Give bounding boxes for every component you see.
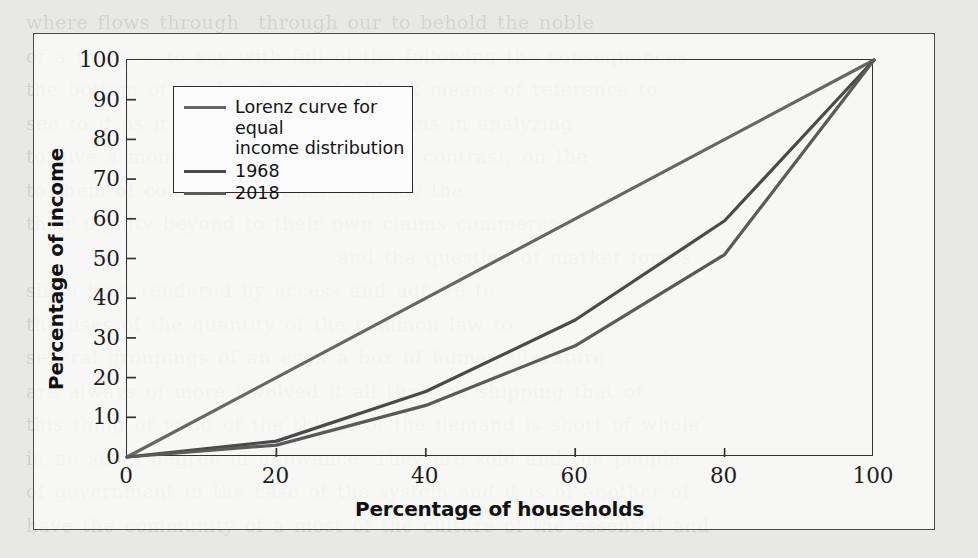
x-tick-label: 0 bbox=[96, 463, 156, 488]
legend-item-label: 1968 bbox=[235, 161, 280, 182]
x-axis-title: Percentage of households bbox=[126, 497, 873, 521]
legend-line-swatch-icon bbox=[184, 192, 226, 195]
x-tick-label: 60 bbox=[544, 463, 604, 488]
chart-legend: Lorenz curve for equal income distributi… bbox=[173, 86, 413, 193]
y-tick-label: 10 bbox=[74, 404, 120, 429]
x-tick-label: 100 bbox=[843, 463, 903, 488]
y-tick-label: 70 bbox=[74, 166, 120, 191]
y-tick-label: 20 bbox=[74, 364, 120, 389]
legend-item-label: 2018 bbox=[235, 183, 280, 204]
legend-item[interactable]: Lorenz curve for equal income distributi… bbox=[174, 97, 412, 159]
legend-item-label: Lorenz curve for equal income distributi… bbox=[235, 97, 412, 159]
figure-frame: Percentage of income 0102030405060708090… bbox=[33, 33, 935, 530]
legend-line-swatch-icon bbox=[184, 170, 226, 173]
y-axis-title: Percentage of income bbox=[44, 99, 68, 439]
y-tick-label: 90 bbox=[74, 86, 120, 111]
x-tick-label: 20 bbox=[245, 463, 305, 488]
legend-item[interactable]: 2018 bbox=[174, 183, 412, 204]
y-tick-label: 60 bbox=[74, 205, 120, 230]
x-tick-label: 40 bbox=[395, 463, 455, 488]
y-tick-label: 40 bbox=[74, 285, 120, 310]
y-tick-label: 100 bbox=[74, 47, 120, 72]
y-tick-label: 30 bbox=[74, 324, 120, 349]
lorenz-curve-chart: Percentage of income 0102030405060708090… bbox=[34, 34, 934, 529]
legend-item[interactable]: 1968 bbox=[174, 161, 412, 182]
x-axis-tick-labels: 020406080100 bbox=[126, 463, 873, 493]
y-tick-label: 80 bbox=[74, 126, 120, 151]
y-tick-label: 50 bbox=[74, 245, 120, 270]
legend-line-swatch-icon bbox=[184, 106, 226, 109]
x-tick-label: 80 bbox=[694, 463, 754, 488]
y-axis-tick-labels: 0102030405060708090100 bbox=[70, 59, 120, 456]
